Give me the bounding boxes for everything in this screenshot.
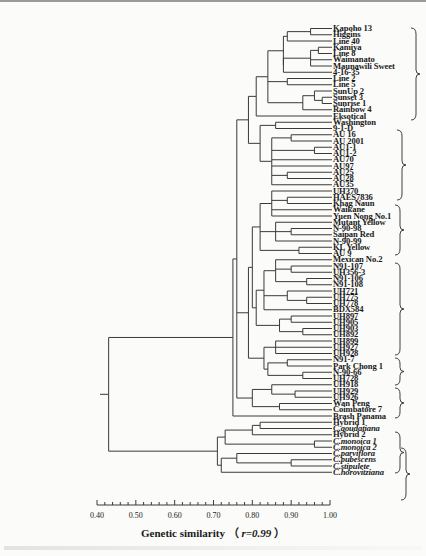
group-brace [395, 432, 404, 473]
group-brace [411, 28, 420, 120]
x-tick-label: 1.00 [323, 511, 337, 520]
group-brace [395, 205, 404, 255]
group-brace [395, 358, 404, 385]
group-brace [401, 448, 410, 500]
group-brace [395, 388, 404, 418]
x-tick-label: 0.90 [284, 511, 298, 520]
group-brace [397, 130, 406, 200]
leaf-label: C.horovitziana [333, 468, 384, 476]
group-brace [395, 263, 404, 355]
x-axis-title: Genetic similarity （ r=0.99 ） [0, 524, 426, 540]
x-tick-label: 0.50 [129, 511, 143, 520]
x-axis-stat: r=0.99 [241, 527, 271, 539]
x-tick-label: 0.60 [168, 511, 182, 520]
x-tick-label: 0.70 [207, 511, 221, 520]
x-tick-label: 0.80 [245, 511, 259, 520]
x-axis-title-text: Genetic similarity [141, 527, 225, 539]
faded-caption-strip [4, 546, 422, 550]
x-tick-label: 0.40 [90, 511, 104, 520]
